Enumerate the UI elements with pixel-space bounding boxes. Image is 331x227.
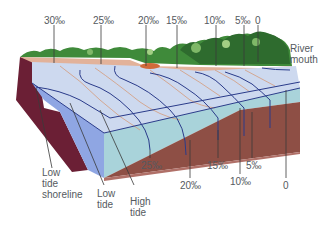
surface-salinity-20: 20‰ bbox=[138, 15, 159, 26]
bottom-salinity-10: 10‰ bbox=[230, 176, 251, 187]
surface-salinity-10: 10‰ bbox=[204, 15, 225, 26]
low-tide-shoreline-line1: Low bbox=[42, 167, 83, 178]
bottom-salinity-20: 20‰ bbox=[180, 180, 201, 191]
low-tide-shoreline-line3: shoreline bbox=[42, 189, 83, 200]
high-tide-label: High tide bbox=[130, 196, 151, 218]
low-tide-line1: Low bbox=[97, 188, 115, 199]
estuary-diagram: 30‰ 25‰ 20‰ 15‰ 10‰ 5‰ 0 River mouth 25‰… bbox=[0, 0, 331, 227]
bottom-salinity-5: 5‰ bbox=[246, 160, 262, 171]
bottom-salinity-15: 15‰ bbox=[207, 160, 228, 171]
river-mouth-line1: River bbox=[290, 43, 318, 54]
low-tide-shoreline-label: Low tide shoreline bbox=[42, 167, 83, 200]
high-tide-line1: High bbox=[130, 196, 151, 207]
sandbar bbox=[140, 63, 160, 69]
high-tide-line2: tide bbox=[130, 207, 151, 218]
low-tide-line2: tide bbox=[97, 199, 115, 210]
river-mouth-label: River mouth bbox=[290, 43, 318, 65]
surface-salinity-0: 0 bbox=[255, 15, 261, 26]
surface-salinity-5: 5‰ bbox=[235, 15, 251, 26]
low-tide-shoreline-line2: tide bbox=[42, 178, 83, 189]
low-tide-label: Low tide bbox=[97, 188, 115, 210]
bottom-salinity-0: 0 bbox=[283, 180, 289, 191]
river-mouth-line2: mouth bbox=[290, 54, 318, 65]
bottom-salinity-25: 25‰ bbox=[141, 160, 162, 171]
surface-salinity-15: 15‰ bbox=[166, 15, 187, 26]
surface-salinity-25: 25‰ bbox=[93, 15, 114, 26]
surface-salinity-30: 30‰ bbox=[44, 15, 65, 26]
